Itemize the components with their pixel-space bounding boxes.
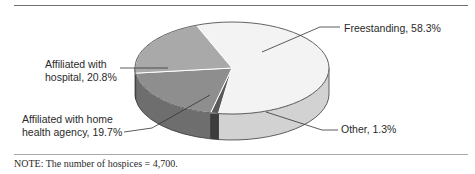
label-other: Other, 1.3% bbox=[341, 123, 396, 135]
label-hospital-line1: Affiliated with bbox=[45, 58, 107, 70]
bottom-rule bbox=[14, 154, 468, 155]
label-freestanding: Freestanding, 58.3% bbox=[344, 22, 441, 34]
pie-chart: Freestanding, 58.3% Other, 1.3% Affiliat… bbox=[0, 0, 475, 174]
chart-note: NOTE: The number of hospices = 4,700. bbox=[14, 158, 178, 169]
pie-side-other bbox=[211, 113, 219, 140]
label-hospital-line2: hospital, 20.8% bbox=[45, 71, 117, 83]
label-home-health-line2: health agency, 19.7% bbox=[22, 126, 122, 138]
label-home-health-line1: Affiliated with home bbox=[22, 113, 113, 125]
